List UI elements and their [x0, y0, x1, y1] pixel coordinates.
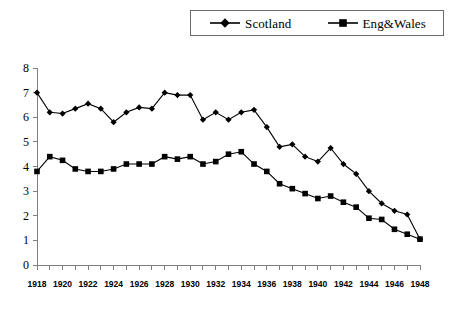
data-point-diamond-marker — [47, 109, 53, 115]
data-point-square-marker — [341, 199, 347, 205]
legend-item-engwales: Eng&Wales — [326, 16, 426, 30]
x-tick-label: 1946 — [385, 279, 404, 289]
y-tick-label: 4 — [23, 160, 29, 174]
y-tick-label: 6 — [23, 110, 29, 124]
data-point-square-marker — [124, 161, 130, 167]
data-point-diamond-marker — [85, 101, 91, 107]
x-tick-label: 1942 — [334, 279, 353, 289]
data-point-square-marker — [392, 226, 398, 232]
data-point-square-marker — [73, 166, 79, 172]
data-point-square-marker — [47, 154, 53, 160]
x-tick-label: 1938 — [283, 279, 302, 289]
data-point-diamond-marker — [200, 117, 206, 123]
data-point-diamond-marker — [213, 109, 219, 115]
x-tick-label: 1918 — [28, 279, 47, 289]
series-scotland — [34, 90, 423, 243]
data-point-square-marker — [85, 169, 91, 175]
data-point-square-marker — [277, 181, 283, 187]
data-point-square-marker — [366, 215, 372, 221]
data-point-square-marker — [149, 161, 155, 167]
data-point-diamond-marker — [59, 110, 65, 116]
y-tick-label: 3 — [23, 184, 29, 198]
chart-plot-area: 012345678 191819201922192419261928193019… — [0, 0, 458, 309]
chart-legend: Scotland Eng&Wales — [190, 10, 444, 36]
x-tick-label: 1920 — [53, 279, 72, 289]
x-tick-label: 1924 — [104, 279, 123, 289]
data-point-square-marker — [404, 231, 410, 237]
x-tick-label: 1922 — [79, 279, 98, 289]
data-point-square-marker — [34, 169, 40, 175]
legend-label-scotland: Scotland — [245, 17, 291, 30]
data-point-square-marker — [200, 161, 206, 167]
y-tick-label: 2 — [23, 209, 29, 223]
legend-square-marker-icon — [326, 16, 360, 30]
data-point-diamond-marker — [187, 92, 193, 98]
y-tick-label: 0 — [23, 258, 29, 272]
data-point-square-marker — [98, 169, 104, 175]
x-tick-label: 1934 — [232, 279, 251, 289]
data-point-square-marker — [136, 161, 142, 167]
data-point-diamond-marker — [72, 106, 78, 112]
data-point-diamond-marker — [174, 92, 180, 98]
x-tick-label: 1940 — [308, 279, 327, 289]
data-point-square-marker — [264, 169, 270, 175]
x-tick-label: 1930 — [181, 279, 200, 289]
y-tick-label: 1 — [23, 233, 29, 247]
legend-item-scotland: Scotland — [208, 16, 291, 30]
x-tick-label: 1936 — [257, 279, 276, 289]
y-tick-label: 7 — [23, 86, 29, 100]
data-point-diamond-marker — [225, 117, 231, 123]
y-tick-label: 8 — [23, 61, 29, 75]
data-point-square-marker — [111, 166, 117, 172]
data-point-square-marker — [251, 161, 257, 167]
x-axis: 1918192019221924192619281930193219341936… — [28, 265, 430, 289]
x-tick-label: 1948 — [411, 279, 430, 289]
series-line — [37, 93, 420, 240]
data-point-square-marker — [162, 154, 168, 160]
x-tick-label: 1932 — [206, 279, 225, 289]
data-point-square-marker — [60, 158, 66, 164]
x-tick-label: 1944 — [359, 279, 378, 289]
data-point-square-marker — [328, 193, 334, 199]
data-point-square-marker — [417, 236, 423, 242]
data-point-square-marker — [315, 196, 321, 202]
data-point-square-marker — [290, 186, 296, 192]
data-series-group — [34, 90, 423, 243]
data-point-diamond-marker — [404, 211, 410, 217]
legend-label-engwales: Eng&Wales — [363, 17, 426, 30]
x-tick-label: 1928 — [155, 279, 174, 289]
data-point-square-marker — [238, 149, 244, 155]
data-point-diamond-marker — [276, 144, 282, 150]
data-point-square-marker — [175, 156, 181, 162]
data-point-diamond-marker — [238, 109, 244, 115]
series-line — [37, 152, 420, 239]
data-point-square-marker — [226, 151, 232, 157]
x-tick-label: 1926 — [130, 279, 149, 289]
data-point-diamond-marker — [391, 208, 397, 214]
data-point-square-marker — [213, 159, 219, 165]
data-point-square-marker — [353, 204, 359, 210]
line-chart: Scotland Eng&Wales 012345678 19181920192… — [0, 0, 458, 309]
y-tick-label: 5 — [23, 135, 29, 149]
legend-diamond-marker-icon — [208, 16, 242, 30]
data-point-square-marker — [187, 154, 193, 160]
data-point-square-marker — [302, 191, 308, 197]
data-point-diamond-marker — [136, 104, 142, 110]
data-point-square-marker — [379, 217, 385, 223]
series-eng-wales — [34, 149, 423, 242]
data-point-diamond-marker — [34, 90, 40, 96]
